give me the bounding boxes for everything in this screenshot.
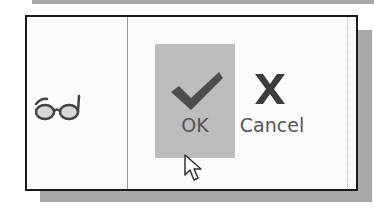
- panel-shadow-bottom: [40, 190, 372, 202]
- panel-edge-line: [347, 17, 349, 189]
- panel-divider: [127, 17, 128, 189]
- ok-label: OK: [155, 114, 235, 136]
- x-icon: [253, 72, 287, 106]
- checkmark-icon: [169, 66, 225, 116]
- panel-shadow-right: [357, 30, 372, 202]
- glasses-icon[interactable]: [33, 94, 89, 122]
- mouse-cursor-icon: [183, 153, 205, 183]
- ok-button[interactable]: OK: [155, 44, 235, 158]
- cancel-button[interactable]: Cancel: [237, 44, 307, 158]
- top-divider-band: [32, 0, 374, 4]
- cancel-label: Cancel: [237, 114, 307, 136]
